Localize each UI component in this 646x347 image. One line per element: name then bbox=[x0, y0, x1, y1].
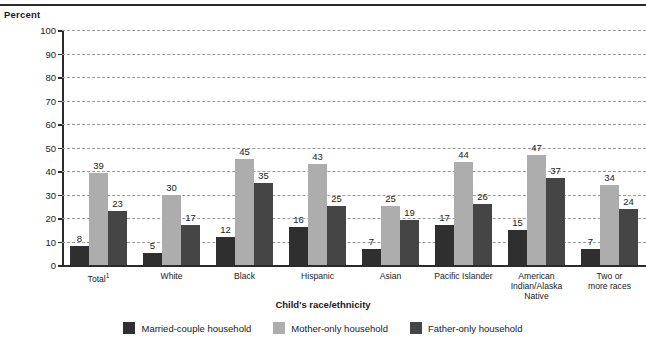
y-tick-label: 50 bbox=[30, 142, 56, 153]
bar bbox=[181, 225, 200, 265]
bar bbox=[254, 183, 273, 265]
legend-item[interactable]: Father-only household bbox=[410, 322, 523, 334]
legend-item[interactable]: Mother-only household bbox=[273, 322, 388, 334]
bar bbox=[546, 178, 565, 265]
y-tick-label: 60 bbox=[30, 119, 56, 130]
y-tick-mark bbox=[58, 265, 62, 267]
bar-group: 124535 bbox=[216, 30, 273, 265]
y-tick-label: 20 bbox=[30, 213, 56, 224]
bar-group: 73424 bbox=[581, 30, 638, 265]
bar-value-label: 45 bbox=[230, 146, 260, 157]
y-tick-mark bbox=[58, 54, 62, 56]
y-tick-mark bbox=[58, 124, 62, 126]
legend-swatch-icon bbox=[273, 322, 285, 334]
bar bbox=[362, 249, 381, 265]
bar bbox=[308, 164, 327, 265]
y-tick-mark bbox=[58, 171, 62, 173]
legend-swatch-icon bbox=[123, 322, 135, 334]
y-tick-label: 40 bbox=[30, 166, 56, 177]
y-tick-label: 0 bbox=[30, 260, 56, 271]
bar bbox=[435, 225, 454, 265]
bar-value-label: 34 bbox=[595, 172, 625, 183]
y-tick-label: 30 bbox=[30, 189, 56, 200]
x-axis-line bbox=[62, 265, 646, 267]
legend-label: Married-couple household bbox=[141, 323, 251, 334]
bar bbox=[162, 195, 181, 266]
x-axis-title: Child's race/ethnicity bbox=[0, 299, 646, 310]
bar-value-label: 44 bbox=[449, 149, 479, 160]
y-tick-mark bbox=[58, 242, 62, 244]
chart-legend: Married-couple householdMother-only hous… bbox=[0, 322, 646, 334]
bar bbox=[89, 173, 108, 265]
bar-value-label: 30 bbox=[157, 182, 187, 193]
y-tick-mark bbox=[58, 30, 62, 32]
bar bbox=[327, 206, 346, 265]
bar-value-label: 19 bbox=[395, 207, 425, 218]
legend-label: Father-only household bbox=[428, 323, 523, 334]
y-tick-label: 100 bbox=[30, 25, 56, 36]
bar-group: 53017 bbox=[143, 30, 200, 265]
y-tick-mark bbox=[58, 218, 62, 220]
bar-group: 174426 bbox=[435, 30, 492, 265]
x-category-label: Two ormore races bbox=[564, 271, 646, 291]
y-axis-title: Percent bbox=[4, 9, 40, 20]
top-rule bbox=[0, 4, 646, 6]
bar-group: 154737 bbox=[508, 30, 565, 265]
bar-value-label: 35 bbox=[249, 170, 279, 181]
y-tick-label: 80 bbox=[30, 72, 56, 83]
plot-area: 8392353017124535164325725191744261547377… bbox=[62, 30, 646, 265]
bar-value-label: 17 bbox=[176, 212, 206, 223]
bar-value-label: 39 bbox=[84, 160, 114, 171]
y-tick-mark bbox=[58, 77, 62, 79]
bar bbox=[108, 211, 127, 265]
bar-group: 72519 bbox=[362, 30, 419, 265]
y-tick-mark bbox=[58, 148, 62, 150]
bar bbox=[216, 237, 235, 265]
y-tick-label: 90 bbox=[30, 48, 56, 59]
y-tick-label: 10 bbox=[30, 236, 56, 247]
bar bbox=[400, 220, 419, 265]
bar-value-label: 37 bbox=[541, 165, 571, 176]
bar bbox=[454, 162, 473, 265]
bar bbox=[619, 209, 638, 265]
bar-value-label: 25 bbox=[322, 193, 352, 204]
bar bbox=[289, 227, 308, 265]
legend-swatch-icon bbox=[410, 322, 422, 334]
bar-value-label: 25 bbox=[376, 193, 406, 204]
bar bbox=[143, 253, 162, 265]
bar-value-label: 43 bbox=[303, 151, 333, 162]
bar-value-label: 47 bbox=[522, 142, 552, 153]
bar bbox=[473, 204, 492, 265]
bar-group: 164325 bbox=[289, 30, 346, 265]
bar bbox=[581, 249, 600, 265]
bar-value-label: 24 bbox=[614, 196, 644, 207]
y-tick-label: 70 bbox=[30, 95, 56, 106]
y-tick-mark bbox=[58, 195, 62, 197]
legend-item[interactable]: Married-couple household bbox=[123, 322, 251, 334]
bar bbox=[508, 230, 527, 265]
bar-value-label: 26 bbox=[468, 191, 498, 202]
bar-value-label: 23 bbox=[103, 198, 133, 209]
bar-group: 83923 bbox=[70, 30, 127, 265]
legend-label: Mother-only household bbox=[291, 323, 388, 334]
bar-chart: Percent 83923530171245351643257251917442… bbox=[0, 0, 646, 347]
bar bbox=[70, 246, 89, 265]
y-tick-mark bbox=[58, 101, 62, 103]
